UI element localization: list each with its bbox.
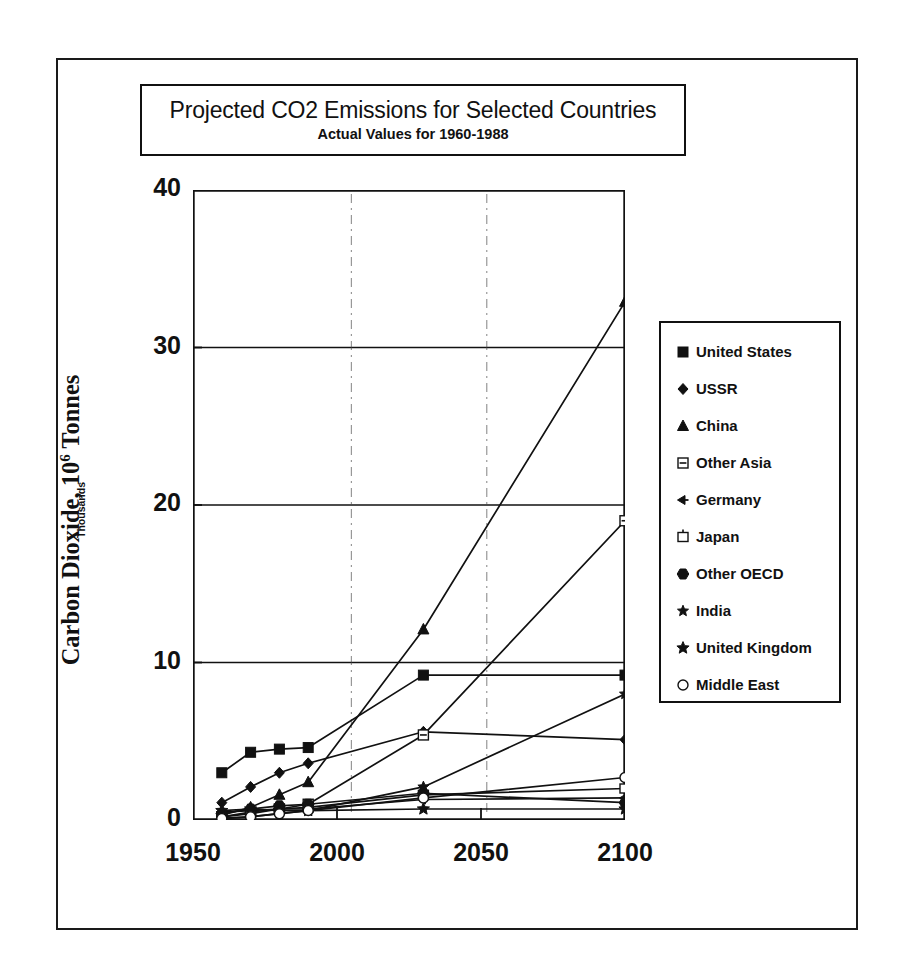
legend-item-united-kingdom[interactable]: United Kingdom xyxy=(661,629,839,666)
data-point-marker xyxy=(418,730,428,740)
open-circle-icon xyxy=(673,675,693,695)
legend-item-other-oecd[interactable]: Other OECD xyxy=(661,555,839,592)
data-point-marker xyxy=(678,495,689,504)
data-point-marker xyxy=(303,758,313,769)
data-point-marker xyxy=(678,680,688,690)
x-axis-tick-label: 2000 xyxy=(292,838,382,867)
data-point-marker xyxy=(274,789,285,800)
data-point-marker xyxy=(418,670,428,680)
series-united-states xyxy=(217,670,625,778)
data-point-marker xyxy=(246,781,256,792)
y-axis-title-units: Thousands xyxy=(75,410,89,610)
legend-item-label: Other OECD xyxy=(696,565,784,582)
legend-item-ussr[interactable]: USSR xyxy=(661,370,839,407)
data-point-marker xyxy=(274,809,284,819)
data-point-marker xyxy=(418,793,428,803)
y-axis-tick-label: 20 xyxy=(117,488,181,517)
x-axis-tick-label: 1950 xyxy=(148,838,238,867)
filled-star-small-icon xyxy=(673,601,693,621)
filled-triangle-icon xyxy=(673,416,693,436)
data-point-marker xyxy=(620,670,625,680)
left-arrow-icon xyxy=(673,490,693,510)
filled-diamond-small-icon xyxy=(673,379,693,399)
open-square-dot-icon xyxy=(673,527,693,547)
data-point-marker xyxy=(678,383,688,394)
legend-item-other-asia[interactable]: Other Asia xyxy=(661,444,839,481)
chart-title-box: Projected CO2 Emissions for Selected Cou… xyxy=(140,84,686,156)
data-point-marker xyxy=(274,744,284,754)
data-point-marker xyxy=(620,734,625,745)
data-point-marker xyxy=(678,529,688,541)
legend-item-united-states[interactable]: United States xyxy=(661,333,839,370)
legend-item-label: United States xyxy=(696,343,792,360)
legend-item-label: India xyxy=(696,602,731,619)
data-point-marker xyxy=(217,768,227,778)
data-point-marker xyxy=(620,772,625,782)
data-point-marker xyxy=(619,688,625,698)
chart-page: Projected CO2 Emissions for Selected Cou… xyxy=(0,0,916,976)
data-point-marker xyxy=(678,347,688,357)
data-point-marker xyxy=(677,605,688,615)
y-axis-tick-label: 0 xyxy=(117,803,181,832)
data-point-marker xyxy=(620,516,625,526)
filled-square-icon xyxy=(673,342,693,362)
data-point-marker xyxy=(678,420,689,431)
legend-item-label: Germany xyxy=(696,491,761,508)
filled-hexagon-icon xyxy=(673,564,693,584)
data-point-marker xyxy=(246,812,256,820)
data-point-marker xyxy=(678,458,688,468)
filled-star-icon xyxy=(673,638,693,658)
y-axis-title-group: Carbon Dioxide, 106 Tonnes Thousands xyxy=(48,330,94,710)
open-square-bar-icon xyxy=(673,453,693,473)
data-point-marker xyxy=(417,803,429,815)
series-line xyxy=(222,675,625,773)
legend-item-label: USSR xyxy=(696,380,738,397)
legend-item-china[interactable]: China xyxy=(661,407,839,444)
data-point-marker xyxy=(303,806,313,816)
legend-item-middle-east[interactable]: Middle East xyxy=(661,666,839,703)
y-axis-tick-label: 30 xyxy=(117,331,181,360)
data-point-marker xyxy=(274,767,284,778)
data-point-marker xyxy=(677,569,689,579)
legend-item-india[interactable]: India xyxy=(661,592,839,629)
chart-subtitle: Actual Values for 1960-1988 xyxy=(317,126,508,142)
y-axis-tick-label: 10 xyxy=(117,646,181,675)
plot-area xyxy=(193,190,625,820)
legend-item-germany[interactable]: Germany xyxy=(661,481,839,518)
legend-item-japan[interactable]: Japan xyxy=(661,518,839,555)
legend-item-label: Middle East xyxy=(696,676,779,693)
series-china xyxy=(216,296,625,820)
data-point-marker xyxy=(217,813,227,820)
legend-item-label: Other Asia xyxy=(696,454,771,471)
data-point-marker xyxy=(418,623,429,634)
legend-item-label: Japan xyxy=(696,528,739,545)
y-axis-title-exponent: 6 xyxy=(57,454,73,462)
data-point-marker xyxy=(303,743,313,753)
data-point-marker xyxy=(246,747,256,757)
plot-canvas xyxy=(193,190,625,820)
data-point-marker xyxy=(620,296,626,307)
y-axis-tick-label: 40 xyxy=(117,173,181,202)
x-axis-tick-label: 2050 xyxy=(436,838,526,867)
chart-title: Projected CO2 Emissions for Selected Cou… xyxy=(170,98,657,122)
x-axis-tick-label: 2100 xyxy=(580,838,670,867)
data-point-marker xyxy=(677,641,689,653)
chart-legend: United StatesUSSRChinaOther AsiaGermanyJ… xyxy=(659,321,841,703)
legend-item-label: United Kingdom xyxy=(696,639,812,656)
legend-item-label: China xyxy=(696,417,738,434)
